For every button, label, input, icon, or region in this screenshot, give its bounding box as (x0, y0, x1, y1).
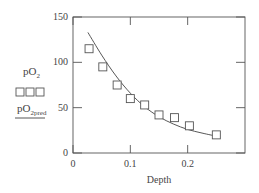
data-point-marker (155, 111, 163, 119)
data-point-marker (185, 122, 193, 130)
data-point-marker (170, 114, 178, 122)
data-point-marker (212, 131, 220, 139)
legend-series2-label: pO2pred (17, 102, 47, 117)
data-markers (85, 45, 220, 139)
y-tick-label: 0 (63, 147, 68, 158)
y-tick-label: 150 (53, 11, 68, 22)
legend-square-icon (36, 88, 44, 96)
data-point-marker (126, 95, 134, 103)
x-tick-label: 0 (71, 158, 76, 169)
axis-tick-labels: 00.10.2050100150 (53, 11, 194, 169)
x-axis-label: Depth (147, 174, 171, 185)
data-point-marker (99, 63, 107, 71)
data-point-marker (113, 81, 121, 89)
y-tick-label: 50 (58, 102, 68, 113)
y-tick-label: 100 (53, 56, 68, 67)
data-point-marker (85, 45, 93, 53)
predicted-curve (88, 32, 219, 136)
chart: 00.10.2050100150 Depth pO2 pO2pred (0, 0, 259, 193)
x-tick-label: 0.1 (124, 158, 137, 169)
legend-square-icon (16, 88, 24, 96)
legend-series1-label: pO2 (23, 65, 40, 80)
x-tick-label: 0.2 (181, 158, 194, 169)
data-point-marker (141, 101, 149, 109)
legend: pO2 pO2pred (15, 65, 47, 118)
legend-square-markers (16, 88, 44, 96)
legend-square-icon (26, 88, 34, 96)
